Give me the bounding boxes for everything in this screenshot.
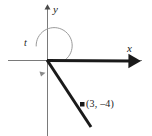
angle-arc [36, 28, 72, 60]
terminal-side-ray [47, 60, 91, 127]
angle-diagram-figure: y x t (3, –4) [0, 0, 152, 136]
angle-arc-arrowhead [40, 72, 46, 77]
terminal-point-marker [80, 102, 85, 107]
figure-canvas [0, 0, 152, 136]
initial-side-ray [47, 61, 132, 62]
